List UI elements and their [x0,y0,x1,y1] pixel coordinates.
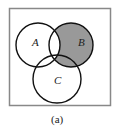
set-label-a: A [31,36,39,48]
figure-caption: (a) [51,113,64,126]
venn-diagram: A B C (a) [0,0,116,128]
set-label-c: C [54,74,62,86]
set-label-b: B [78,36,85,48]
